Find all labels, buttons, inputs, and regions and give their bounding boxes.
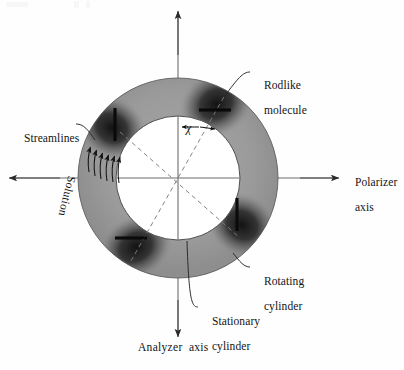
callout-label-stationary-cylinder: Stationary cylinder [200,302,260,365]
rodlike-line1: Rodlike [264,79,301,91]
rotating-line1: Rotating [264,275,304,287]
stationary-line2: cylinder [212,340,250,352]
polarizer-line2: axis [355,201,374,213]
rodlike-line2: molecule [264,104,307,116]
rotating-line2: cylinder [264,300,302,312]
callout-label-rodlike-molecule: Rodlike molecule [252,66,307,129]
figure-container: Rodlike molecule Streamlines Polarizer a… [0,0,404,370]
polarizer-line1: Polarizer [355,176,397,188]
polarizer-axis-label: Polarizer axis [343,163,397,226]
chi-angle-label: χ [186,121,191,136]
streamlines-line1: Streamlines [24,132,79,144]
analyzer-axis-label: Analyzer axis [138,341,209,354]
callout-label-streamlines: Streamlines [12,119,79,158]
stationary-line1: Stationary [212,315,260,327]
